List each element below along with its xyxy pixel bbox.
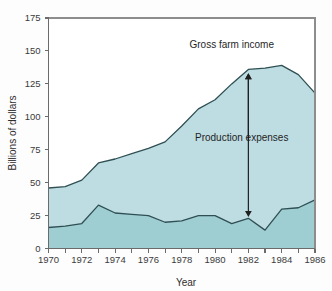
- x-tick-label: 1972: [71, 254, 92, 265]
- y-tick-label: 150: [25, 45, 41, 56]
- y-tick-label: 125: [25, 78, 41, 89]
- x-tick-label: 1970: [38, 254, 59, 265]
- x-axis-tick-labels: 197019721974197619781980198219841986: [38, 254, 326, 265]
- x-tick-label: 1974: [105, 254, 126, 265]
- y-tick-label: 25: [30, 210, 41, 221]
- x-axis-title: Year: [176, 277, 197, 288]
- y-axis-title: Billions of dollars: [7, 95, 18, 170]
- chart-figure: 0255075100125150175 19701972197419761978…: [0, 0, 332, 291]
- x-tick-label: 1976: [138, 254, 159, 265]
- annotation-gross-farm-income-label: Gross farm income: [189, 39, 274, 50]
- y-tick-label: 50: [30, 177, 41, 188]
- y-tick-label: 175: [25, 12, 41, 23]
- y-tick-label: 75: [30, 144, 41, 155]
- x-tick-label: 1978: [171, 254, 192, 265]
- farm-income-area-chart: 0255075100125150175 19701972197419761978…: [0, 0, 332, 291]
- y-tick-label: 100: [25, 111, 41, 122]
- x-tick-label: 1986: [304, 254, 325, 265]
- annotation-production-expenses-label: Production expenses: [195, 132, 288, 143]
- y-tick-label: 0: [35, 243, 40, 254]
- y-axis-tick-labels: 0255075100125150175: [25, 12, 41, 254]
- x-tick-label: 1984: [271, 254, 292, 265]
- x-tick-label: 1980: [204, 254, 225, 265]
- x-tick-label: 1982: [238, 254, 259, 265]
